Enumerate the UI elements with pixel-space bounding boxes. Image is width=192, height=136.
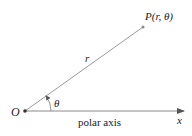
angle-arc-icon	[46, 96, 51, 111]
polar-diagram: O P(r, θ) r θ polar axis x	[0, 0, 192, 136]
point-label: P(r, θ)	[144, 10, 173, 23]
polar-axis-label: polar axis	[78, 116, 121, 128]
origin-label: O	[11, 105, 20, 119]
radius-line	[25, 27, 143, 111]
radius-label: r	[85, 52, 90, 64]
point-p	[142, 26, 145, 29]
x-axis-label: x	[176, 114, 182, 126]
angle-label: θ	[54, 97, 60, 109]
origin-point	[23, 109, 27, 113]
